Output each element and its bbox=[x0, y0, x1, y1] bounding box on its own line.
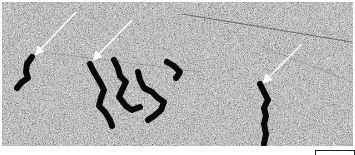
scale-bar bbox=[315, 150, 355, 155]
micrograph-image bbox=[2, 2, 353, 146]
